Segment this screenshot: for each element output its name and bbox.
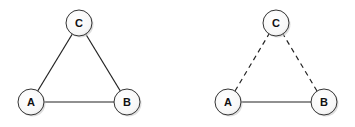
partial-triangle-diagram: C A B — [215, 10, 339, 117]
node-label: C — [75, 17, 83, 29]
node-c: C — [263, 10, 291, 38]
node-label: B — [320, 96, 328, 108]
edge-b-c-dashed — [283, 34, 317, 91]
edge-a-c-dashed — [235, 34, 269, 91]
node-a: A — [18, 89, 46, 117]
edge-a-c — [31, 23, 79, 102]
node-label: C — [272, 17, 280, 29]
diagram-canvas: C A B C A B — [0, 0, 355, 127]
node-c: C — [66, 10, 94, 38]
node-label: A — [27, 96, 35, 108]
node-a: A — [215, 89, 243, 117]
node-label: B — [123, 96, 131, 108]
node-label: A — [224, 96, 232, 108]
node-b: B — [114, 89, 142, 117]
node-b: B — [311, 89, 339, 117]
complete-triangle-diagram: C A B — [18, 10, 142, 117]
